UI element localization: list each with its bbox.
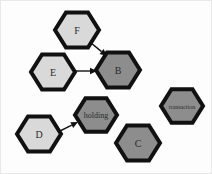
node-label: B	[115, 65, 122, 76]
node-c[interactable]: C	[116, 125, 160, 160]
diagram-canvas: FEBDholdingCtransaction	[0, 0, 212, 174]
node-transaction[interactable]: transaction	[161, 89, 203, 122]
node-layer: FEBDholdingCtransaction	[17, 12, 203, 160]
node-b[interactable]: B	[96, 52, 140, 87]
node-label: F	[74, 25, 80, 36]
node-label: D	[35, 129, 42, 140]
node-label: holding	[84, 111, 108, 120]
edge-e-to-b	[75, 68, 97, 74]
node-label: E	[50, 67, 56, 78]
node-label: C	[135, 138, 142, 149]
edge-line	[91, 43, 102, 52]
node-label: transaction	[169, 104, 195, 110]
diagram-svg: FEBDholdingCtransaction	[1, 1, 212, 174]
node-holding[interactable]: holding	[75, 98, 117, 131]
node-f[interactable]: F	[55, 12, 99, 47]
node-d[interactable]: D	[17, 116, 61, 151]
node-e[interactable]: E	[31, 54, 75, 89]
